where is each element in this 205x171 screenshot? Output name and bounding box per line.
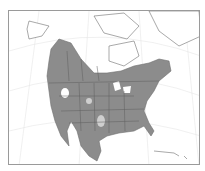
- alaska-coast: [27, 21, 49, 39]
- arctic-islands: [94, 13, 139, 39]
- greenland: [149, 11, 200, 46]
- caribbean-islands: [154, 151, 187, 159]
- range-map: [9, 11, 200, 165]
- hudson-bay: [109, 41, 139, 66]
- map-frame: [8, 10, 200, 165]
